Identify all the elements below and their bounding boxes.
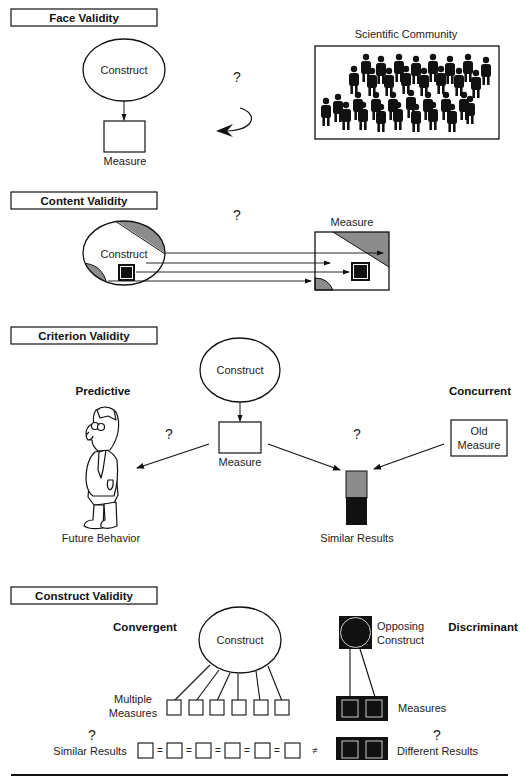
- construct-label: Construct: [100, 248, 147, 260]
- link: [360, 649, 375, 697]
- multiple-measures-label: Multiple: [114, 693, 152, 705]
- old-measure-label: Measure: [458, 439, 501, 451]
- future-behavior-label: Future Behavior: [62, 532, 141, 544]
- equals-sign: =: [244, 745, 250, 756]
- similar-results-bar-icon: [346, 471, 367, 525]
- not-equal-sign: ≠: [312, 745, 318, 756]
- predictive-label: Predictive: [76, 385, 131, 397]
- community-label: Scientific Community: [355, 28, 458, 40]
- arrow-to-results: [268, 444, 340, 470]
- measure-label: Measure: [219, 456, 262, 468]
- section-title: Content Validity: [41, 195, 129, 207]
- different-results: [336, 737, 388, 760]
- arrow-to-future: [137, 444, 209, 468]
- similar-results-label: Similar Results: [53, 745, 127, 757]
- criterion-validity-header: Criterion Validity: [11, 327, 157, 344]
- old-measure-label: Old: [470, 425, 487, 437]
- measure-box: [219, 422, 261, 453]
- construct-label: Construct: [100, 64, 147, 76]
- measure-label: Measure: [331, 216, 374, 228]
- multiple-measures-boxes: [167, 700, 289, 715]
- question-mark: ?: [433, 727, 441, 743]
- question-mark: ?: [165, 426, 173, 442]
- construct-label: Construct: [216, 364, 263, 376]
- similar-results-label: Similar Results: [320, 532, 394, 544]
- measure-label: Measure: [104, 155, 147, 167]
- different-results-label: Different Results: [397, 745, 479, 757]
- scientific-community-box: [315, 46, 499, 139]
- measure-square: [315, 232, 389, 290]
- discriminant-label: Discriminant: [448, 621, 518, 633]
- old-measure-box: Old Measure: [451, 420, 507, 456]
- face-validity-section: Face Validity Construct Measure ? Scient…: [11, 9, 499, 167]
- question-mark: ?: [233, 69, 241, 85]
- construct-label: Construct: [216, 634, 263, 646]
- validity-diagram: Face Validity Construct Measure ? Scient…: [0, 0, 527, 782]
- opposing-construct-label: Opposing: [377, 620, 424, 632]
- construct-node: Construct: [200, 338, 280, 402]
- opposing-construct-node: Opposing Construct: [339, 616, 424, 649]
- convergent-label: Convergent: [113, 621, 177, 633]
- question-mark: ?: [88, 727, 96, 743]
- construct-node: Construct: [83, 39, 165, 101]
- content-validity-section: Content Validity ? Construct Measure: [11, 192, 389, 290]
- section-title: Criterion Validity: [38, 330, 130, 342]
- content-validity-header: Content Validity: [11, 192, 157, 209]
- question-mark: ?: [353, 426, 361, 442]
- opposing-construct-label: Construct: [377, 634, 424, 646]
- criterion-validity-section: Criterion Validity Construct Measure Pre…: [11, 327, 511, 544]
- construct-ellipse: Construct: [80, 220, 170, 285]
- construct-node: Construct: [199, 607, 281, 673]
- equals-sign: =: [186, 745, 192, 756]
- equals-sign: =: [274, 745, 280, 756]
- measure-box: [104, 121, 145, 152]
- section-title: Face Validity: [49, 12, 119, 24]
- person-cartoon-icon: [84, 407, 119, 529]
- arrow-from-old: [374, 444, 444, 469]
- section-title: Construct Validity: [35, 590, 133, 602]
- equals-sign: =: [215, 745, 221, 756]
- equals-sign: =: [157, 745, 163, 756]
- similar-results-row: = = = = = ≠: [138, 743, 318, 758]
- measures-label: Measures: [398, 702, 447, 714]
- question-mark: ?: [233, 207, 241, 223]
- multiple-measures-label: Measures: [109, 707, 158, 719]
- construct-validity-section: Construct Validity Convergent Discrimina…: [11, 587, 518, 760]
- concurrent-label: Concurrent: [449, 385, 511, 397]
- face-validity-header: Face Validity: [11, 9, 157, 26]
- construct-validity-header: Construct Validity: [11, 587, 157, 604]
- discriminant-measures: [336, 696, 388, 721]
